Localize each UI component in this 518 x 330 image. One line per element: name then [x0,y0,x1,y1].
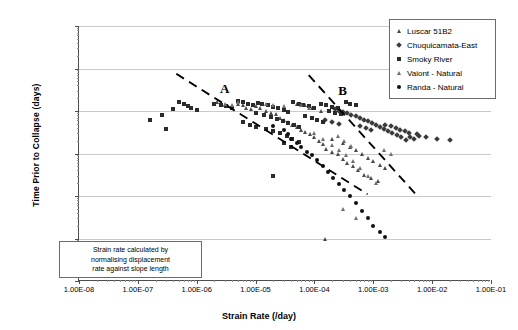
triangle-marker-icon [394,26,404,36]
legend-item-label: Chuquicamata-East [407,41,477,50]
square-marker-icon [394,54,404,64]
circle-marker-icon [394,82,404,92]
legend-item-label: Randa - Natural [407,83,463,92]
legend: Luscar 51B2Chuquicamata-EastSmoky RiverV… [389,19,496,99]
legend-item-1[interactable]: Chuquicamata-East [394,38,492,52]
legend-item-4[interactable]: Randa - Natural [394,80,492,94]
x-tick-label: 1.00E-01 [456,285,518,294]
note-box: Strain rate calculated by normalising di… [59,241,202,278]
x-axis-title: Strain Rate (/day) [0,311,518,321]
legend-item-label: Luscar 51B2 [407,27,452,36]
x-tick-mark [491,280,492,284]
note-line-1: Strain rate calculated by [64,245,197,255]
legend-item-2[interactable]: Smoky River [394,52,492,66]
legend-item-label: Vaiont - Natural [407,69,462,78]
diamond-marker-icon [394,40,404,50]
note-line-3: rate against slope length [64,264,197,274]
trend-label-b: B [338,83,347,99]
y-axis-title: Time Prior to Collapse (days) [31,45,41,245]
chart-canvas: Time Prior to Collapse (days) Strain Rat… [0,0,518,330]
legend-item-0[interactable]: Luscar 51B2 [394,24,492,38]
triangle-light-marker-icon [394,68,404,78]
note-line-2: normalising displacement [64,255,197,265]
legend-item-3[interactable]: Vaiont - Natural [394,66,492,80]
legend-item-label: Smoky River [407,55,452,64]
trend-label-a: A [220,81,229,97]
